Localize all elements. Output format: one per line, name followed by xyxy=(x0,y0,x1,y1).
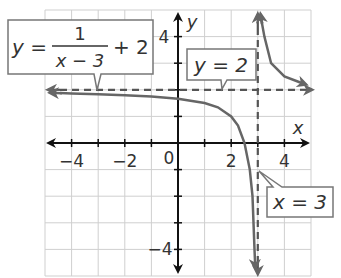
equation-denominator: x − 3 xyxy=(55,50,105,71)
equation-constant: + 2 xyxy=(113,35,149,59)
x-tick-label: −2 xyxy=(112,151,137,171)
x-tick-label: 2 xyxy=(226,151,237,171)
x-tick-label: 4 xyxy=(279,151,290,171)
vertical-asymptote-label: x = 3 xyxy=(272,190,327,214)
horizontal-asymptote-callout: y = 2 xyxy=(187,49,256,89)
x-tick-label: −4 xyxy=(59,151,84,171)
origin-label: 0 xyxy=(164,148,175,168)
equation-callout: y = 1 x − 3 + 2 xyxy=(8,20,153,90)
x-axis-label: x xyxy=(292,117,304,138)
y-tick-label: −4 xyxy=(147,239,172,259)
equation-numerator: 1 xyxy=(74,23,85,44)
graph: −4 −2 0 2 4 4 −4 x y y = 1 x − 3 + 2 y =… xyxy=(0,0,341,278)
y-axis-label: y xyxy=(186,11,198,32)
y-tick-label: 4 xyxy=(159,27,170,47)
horizontal-asymptote-label: y = 2 xyxy=(193,53,248,77)
vertical-asymptote-callout: x = 3 xyxy=(259,171,333,217)
curve-right-branch xyxy=(261,18,306,85)
equation-lhs: y = xyxy=(11,35,47,59)
